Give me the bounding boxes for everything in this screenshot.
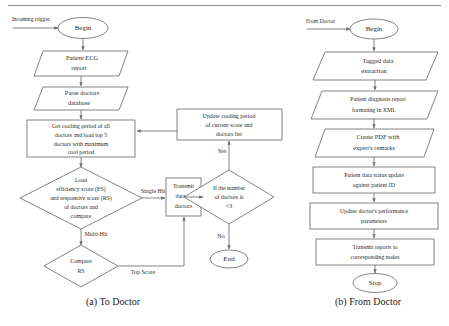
node-patient-status-shape (313, 167, 435, 193)
node-create-pdf-line1: Create PDF with (357, 133, 401, 140)
edge-label-top-score: Top Score (131, 269, 156, 275)
node-transmit-data-line3: doctors (175, 203, 193, 209)
node-doctor-performance-shape (310, 203, 438, 229)
diagram-to-doctor: Incoming trigger Begin Patient ECG repor… (12, 16, 282, 287)
node-transmit-reports-shape (316, 239, 434, 265)
node-transmit-reports-line2: corresponding nodes (351, 254, 401, 260)
node-patient-status-line1: Patient data status update (344, 172, 404, 178)
node-load-scores-line4: of doctors and (64, 204, 98, 210)
caption-to-doctor: (a) To Doctor (86, 296, 140, 307)
node-tagged-data-line1: Tagged data (363, 57, 394, 64)
from-doctor-label: From Doctor (306, 18, 335, 24)
node-load-scores-line5: compare (71, 213, 92, 219)
node-patient-ecg-line1: Patient ECG (66, 54, 99, 61)
node-update-cooling-line2: of current score and (206, 122, 253, 128)
edge-label-no: No (217, 233, 224, 239)
node-if-doctors-line2: of doctors is (214, 194, 244, 200)
node-load-scores-line1: Load (75, 177, 87, 183)
node-diagnosis-report-shape (311, 91, 438, 119)
node-diagnosis-report-line1: Patient diagnosis report (350, 96, 406, 102)
node-b-begin-label: Begin (366, 25, 383, 33)
node-tagged-data-line2: extraction (361, 67, 387, 74)
node-diagnosis-report-line2: formating in XML (352, 107, 396, 113)
node-compare-rs-line1: Compare (70, 258, 92, 264)
figure-container: Incoming trigger Begin Patient ECG repor… (0, 0, 449, 326)
node-update-cooling-line3: doctors list (216, 131, 242, 137)
node-compare-rs-shape (44, 245, 118, 287)
node-get-cooling-line4: cool period (68, 149, 95, 155)
node-get-cooling-line3: doctors with maximum (54, 141, 109, 147)
node-load-scores-line2: efficiency score (ES) (56, 186, 106, 193)
node-transmit-data-line1: Transmit (173, 183, 194, 189)
node-if-doctors-line1: If the number (213, 185, 245, 191)
diagram-from-doctor: From Doctor Begin Tagged data extraction… (306, 18, 438, 292)
node-patient-status-line2: against patient ID (353, 182, 396, 188)
edge-label-multi-hit: Multi-Hit (84, 231, 107, 237)
node-parse-database-line1: Parse doctors (65, 89, 100, 96)
node-end-label: End (223, 255, 235, 263)
node-get-cooling-line1: Get cooling period of all (52, 123, 110, 129)
incoming-trigger-label: Incoming trigger (12, 16, 50, 22)
node-doctor-performance-line1: Update doctor's performance (340, 208, 409, 214)
node-if-doctors-line3: <3 (226, 203, 232, 209)
caption-from-doctor: (b) From Doctor (335, 296, 401, 307)
edge-label-single-hit: Single Hit (141, 188, 166, 194)
node-doctor-performance-line2: parameters (361, 218, 388, 224)
node-load-scores-line3: and responsive score (RS) (50, 195, 112, 202)
edge-label-yes: Yes (218, 148, 227, 154)
connector-compare-to-transmit (118, 217, 184, 266)
node-tagged-data-shape (313, 52, 438, 80)
node-stop-label: Stop (369, 279, 382, 287)
node-patient-ecg-line2: report (71, 64, 86, 71)
node-compare-rs-line2: RS (77, 268, 84, 274)
node-parse-database-line2: database (68, 99, 90, 106)
node-get-cooling-line2: doctors and load top 5 (55, 132, 107, 138)
node-transmit-reports-line1: Transmit reports to (353, 244, 398, 250)
node-begin-label: Begin (75, 24, 92, 32)
flowchart-svg: Incoming trigger Begin Patient ECG repor… (0, 0, 449, 326)
node-update-cooling-line1: Update cooling period (203, 113, 256, 119)
node-create-pdf-line2: expert's remarks (353, 144, 395, 151)
